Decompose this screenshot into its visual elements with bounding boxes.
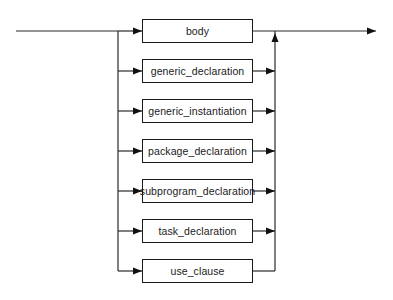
- box-use-clause: use_clause: [142, 259, 253, 283]
- box-generic-declaration: generic_declaration: [142, 59, 253, 83]
- box-subprogram-declaration: subprogram_declaration: [142, 179, 253, 203]
- arrow-right-icon: [266, 108, 275, 115]
- box-body: body: [142, 19, 253, 43]
- arrow-right-icon: [133, 108, 142, 115]
- exit-arrow-icon: [367, 28, 376, 35]
- arrow-right-icon: [266, 68, 275, 75]
- arrow-right-icon: [133, 268, 142, 275]
- box-task-declaration: task_declaration: [142, 219, 253, 243]
- arrow-right-icon: [266, 188, 275, 195]
- arrow-right-icon: [133, 228, 142, 235]
- arrow-right-icon: [133, 28, 142, 35]
- syntax-diagram: body generic_declaration generic_instant…: [0, 0, 393, 300]
- arrow-up-icon: [272, 33, 279, 42]
- box-generic-instantiation: generic_instantiation: [142, 99, 253, 123]
- arrow-right-icon: [133, 148, 142, 155]
- arrow-right-icon: [133, 68, 142, 75]
- box-package-declaration: package_declaration: [142, 139, 253, 163]
- arrow-right-icon: [266, 228, 275, 235]
- arrow-right-icon: [266, 148, 275, 155]
